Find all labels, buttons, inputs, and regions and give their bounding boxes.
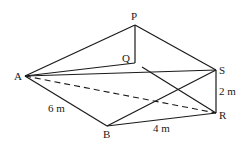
geometry-diagram: P Q A S R B 6 m 4 m 2 m [0, 0, 250, 148]
label-R: R [219, 109, 227, 121]
edge-PS [135, 25, 216, 70]
label-S: S [219, 64, 225, 76]
label-P: P [131, 10, 137, 22]
label-A: A [14, 70, 22, 82]
edge-BS [107, 70, 216, 126]
measure-SR: 2 m [219, 85, 236, 97]
label-B: B [103, 128, 110, 140]
edge-QR [142, 67, 216, 113]
label-Q: Q [122, 52, 130, 64]
edge-AP [25, 25, 135, 76]
measure-BR: 4 m [153, 122, 170, 134]
measure-AB: 6 m [48, 102, 65, 114]
